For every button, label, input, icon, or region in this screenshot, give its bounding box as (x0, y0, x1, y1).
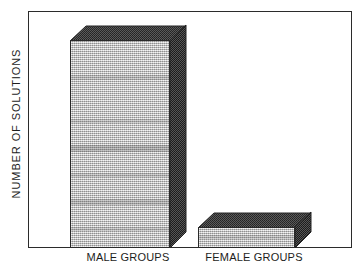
x-axis-label-female-groups: FEMALE GROUPS (196, 251, 312, 263)
bar-female-groups-side-face (294, 211, 313, 250)
x-axis-label-male-groups: MALE GROUPS (70, 251, 186, 263)
chart-screenshot: NUMBER OF SOLUTIONS (0, 0, 364, 277)
bar-male-groups-front-face (70, 40, 170, 248)
y-axis-title: NUMBER OF SOLUTIONS (6, 5, 26, 242)
bar-male-groups-side-face (169, 24, 188, 249)
bar-female-groups-front-face (198, 227, 295, 248)
plot-frame (28, 11, 352, 248)
